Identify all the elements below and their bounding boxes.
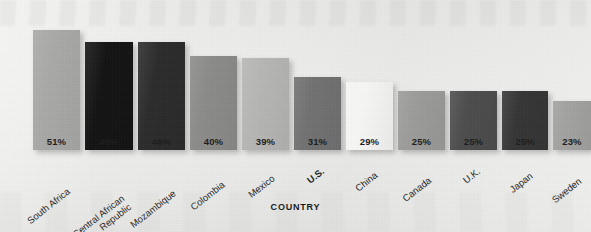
bar-value-label: 39% bbox=[256, 136, 275, 147]
bar-value-label: 31% bbox=[308, 136, 327, 147]
bar-south-africa[interactable] bbox=[33, 30, 80, 150]
plot-area: 51% South Africa 46% Central AfricanRepu… bbox=[0, 0, 591, 232]
x-axis-label-us: U.S. bbox=[305, 166, 326, 186]
bar-central-african-republic[interactable] bbox=[85, 42, 133, 150]
bar-chart: 51% South Africa 46% Central AfricanRepu… bbox=[0, 0, 591, 232]
bar-value-label: 25% bbox=[412, 136, 431, 147]
bar-mozambique[interactable] bbox=[138, 42, 185, 150]
bar-value-label: 23% bbox=[562, 136, 581, 147]
x-axis-label-mexico: Mexico bbox=[246, 174, 276, 201]
bar-value-label: 46% bbox=[99, 136, 118, 147]
x-axis-label-japan: Japan bbox=[508, 171, 535, 195]
bar-value-label: 51% bbox=[47, 136, 66, 147]
bar-value-label: 40% bbox=[204, 136, 223, 147]
bar-value-label: 25% bbox=[464, 136, 483, 147]
x-axis-label-uk: U.K. bbox=[461, 166, 482, 186]
bar-value-label: 29% bbox=[360, 136, 379, 147]
x-axis-label-china: China bbox=[353, 170, 379, 194]
x-axis-label-canada: Canada bbox=[400, 175, 433, 204]
bar-value-label: 46% bbox=[152, 136, 171, 147]
bar-value-label: 25% bbox=[515, 136, 534, 147]
x-axis-label-central-african-republic: Central AfricanRepublic bbox=[71, 193, 133, 232]
x-axis-title: COUNTRY bbox=[0, 202, 591, 212]
